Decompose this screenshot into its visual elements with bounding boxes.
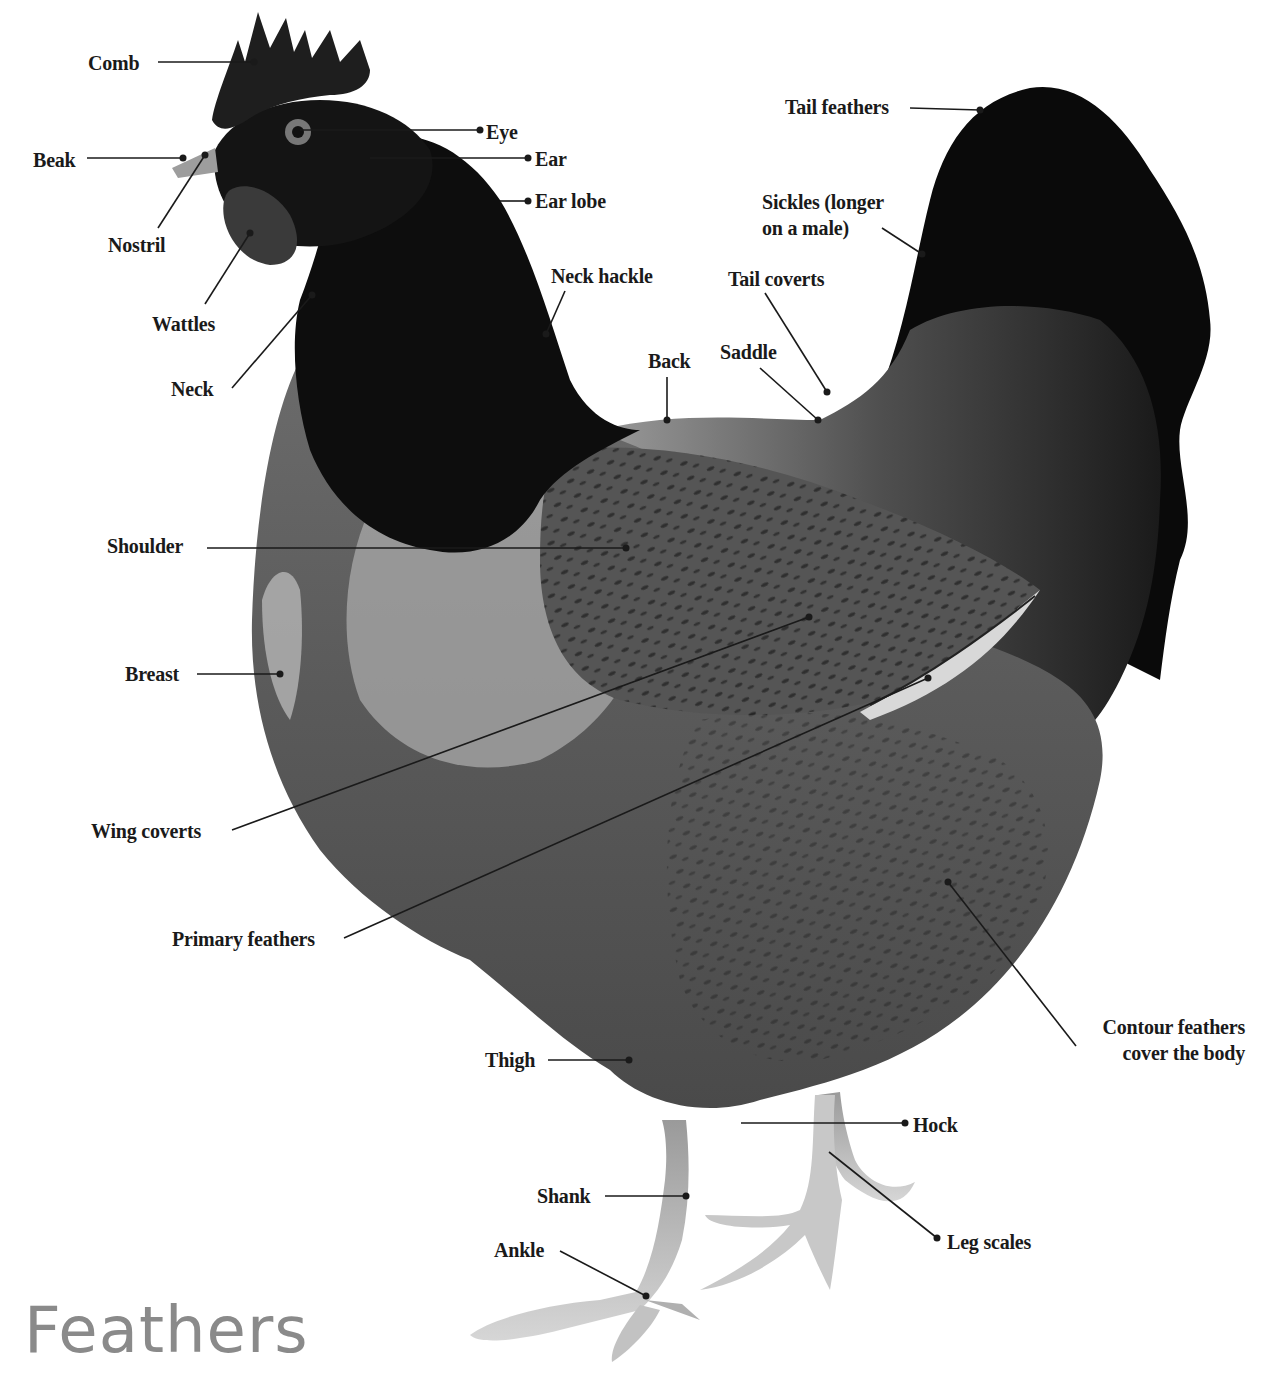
leader-dot-leg-scales bbox=[934, 1235, 941, 1242]
leader-dot-tail-feathers bbox=[977, 107, 984, 114]
leader-dot-hock bbox=[902, 1120, 909, 1127]
leader-line-saddle bbox=[760, 368, 818, 420]
leader-dot-ear-lobe bbox=[525, 198, 532, 205]
label-tail-coverts: Tail coverts bbox=[728, 266, 824, 292]
leader-dot-beak bbox=[180, 155, 187, 162]
leader-dot-saddle bbox=[815, 417, 822, 424]
leader-dot-back bbox=[664, 417, 671, 424]
label-sickles: Sickles (longer on a male) bbox=[762, 189, 884, 241]
leader-dot-primary-feathers bbox=[925, 675, 932, 682]
leader-dot-eye bbox=[477, 127, 484, 134]
leader-dot-wing-coverts bbox=[806, 614, 813, 621]
label-contour-feathers: Contour feathers cover the body bbox=[1040, 1014, 1245, 1066]
leader-dot-neck bbox=[309, 292, 316, 299]
leader-dot-ankle bbox=[643, 1293, 650, 1300]
label-saddle: Saddle bbox=[720, 339, 777, 365]
label-wing-coverts: Wing coverts bbox=[91, 818, 201, 844]
body-speckle bbox=[667, 712, 1048, 1062]
left-leg bbox=[470, 1120, 689, 1340]
label-shoulder: Shoulder bbox=[107, 533, 183, 559]
leader-dot-shank bbox=[683, 1193, 690, 1200]
leader-dot-tail-coverts bbox=[824, 389, 831, 396]
label-neck: Neck bbox=[171, 376, 214, 402]
label-shank: Shank bbox=[537, 1183, 591, 1209]
beak-shape bbox=[172, 148, 218, 178]
label-ear: Ear bbox=[535, 146, 567, 172]
label-back: Back bbox=[648, 348, 691, 374]
leader-dot-sickles bbox=[919, 251, 926, 258]
leader-dot-thigh bbox=[626, 1057, 633, 1064]
leader-dot-comb bbox=[251, 59, 258, 66]
label-neck-hackle: Neck hackle bbox=[551, 263, 653, 289]
leader-dot-contour-feathers bbox=[945, 879, 952, 886]
leader-dot-wattles bbox=[247, 230, 254, 237]
page-title: Feathers bbox=[24, 1292, 309, 1368]
leader-line-neck-hackle bbox=[546, 291, 565, 334]
hen-illustration bbox=[0, 0, 1279, 1395]
leader-line-wattles bbox=[205, 233, 250, 304]
label-tail-feathers: Tail feathers bbox=[785, 94, 889, 120]
chicken-anatomy-diagram: CombBeakNostrilWattlesNeckEyeEarEar lobe… bbox=[0, 0, 1279, 1395]
label-eye: Eye bbox=[486, 119, 518, 145]
leader-dot-shoulder bbox=[623, 545, 630, 552]
leader-line-leg-scales bbox=[829, 1152, 937, 1238]
leader-dot-nostril bbox=[202, 152, 209, 159]
label-comb: Comb bbox=[88, 50, 139, 76]
leader-line-ankle bbox=[560, 1251, 646, 1296]
label-ear-lobe: Ear lobe bbox=[535, 188, 606, 214]
leader-dot-ear bbox=[525, 155, 532, 162]
label-breast: Breast bbox=[125, 661, 179, 687]
leader-dot-breast bbox=[277, 671, 284, 678]
label-thigh: Thigh bbox=[485, 1047, 535, 1073]
right-leg-shank bbox=[700, 1095, 842, 1290]
leader-dot-neck-hackle bbox=[543, 331, 550, 338]
label-ankle: Ankle bbox=[494, 1237, 544, 1263]
label-hock: Hock bbox=[913, 1112, 958, 1138]
label-beak: Beak bbox=[33, 147, 76, 173]
label-wattles: Wattles bbox=[152, 311, 215, 337]
leader-line-sickles bbox=[882, 228, 922, 254]
leader-line-tail-feathers bbox=[910, 108, 980, 110]
label-primary-feathers: Primary feathers bbox=[172, 926, 315, 952]
label-leg-scales: Leg scales bbox=[947, 1229, 1031, 1255]
label-nostril: Nostril bbox=[108, 232, 165, 258]
